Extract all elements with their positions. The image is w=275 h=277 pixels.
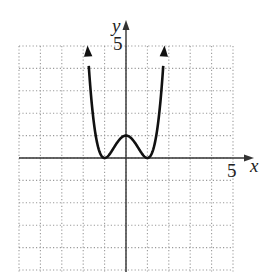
x-axis-label: x (250, 156, 258, 175)
y-tick-label-5: 5 (113, 34, 123, 53)
curve-left-arrow-icon (84, 46, 92, 57)
y-axis-arrow-icon (123, 20, 130, 30)
x-tick-label-5: 5 (227, 161, 237, 180)
curve-right-arrow-icon (160, 46, 168, 57)
function-graph (0, 0, 275, 277)
